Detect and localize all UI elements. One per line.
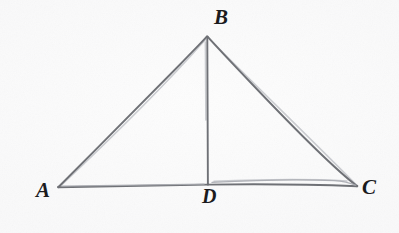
vertex-label-c: C: [362, 177, 376, 198]
triangle-drawing: [0, 0, 399, 233]
vertex-point-a: [57, 186, 60, 189]
ghost-segment-bc: [210, 39, 356, 184]
ghost-segment-bd: [205, 42, 206, 120]
vertex-label-b: B: [214, 7, 228, 28]
segment-ab: [59, 37, 207, 187]
vertex-point-c: [356, 185, 359, 188]
vertex-label-a: A: [36, 180, 50, 201]
geometry-figure: A B C D: [0, 0, 399, 233]
vertex-label-d: D: [202, 186, 216, 206]
main-strokes: [58, 37, 357, 188]
vertex-point-b: [206, 35, 209, 38]
segment-bd-cevian: [207, 37, 208, 184]
